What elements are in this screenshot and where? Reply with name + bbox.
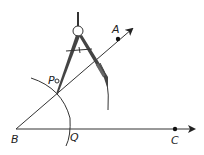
point-c bbox=[173, 127, 177, 131]
label-q: Q bbox=[70, 131, 79, 144]
label-p: P bbox=[48, 74, 55, 87]
arc-pq bbox=[31, 78, 70, 146]
angle-bisector-diagram: A B C P Q bbox=[0, 0, 204, 155]
label-a: A bbox=[111, 23, 120, 36]
label-c: C bbox=[171, 134, 179, 147]
compass-icon bbox=[55, 12, 108, 94]
point-a bbox=[116, 37, 120, 41]
label-b: B bbox=[11, 133, 19, 146]
